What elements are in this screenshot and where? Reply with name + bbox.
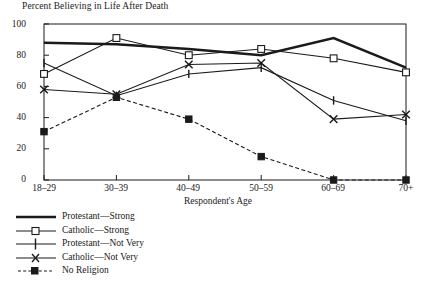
legend-item-catholic-not-very: Catholic—Not Very bbox=[14, 251, 144, 265]
legend-key-no-religion bbox=[14, 264, 58, 278]
legend-key-protestant-strong bbox=[14, 210, 58, 224]
legend-label-catholic-not-very: Catholic—Not Very bbox=[58, 251, 138, 265]
legend-item-protestant-strong: Protestant—Strong bbox=[14, 210, 144, 224]
data-series-layer bbox=[40, 35, 410, 184]
legend-key-protestant-not-very bbox=[14, 237, 58, 251]
legend-label-catholic-strong: Catholic—Strong bbox=[58, 224, 129, 238]
legend-key-catholic-not-very bbox=[14, 251, 58, 265]
legend-item-catholic-strong: Catholic—Strong bbox=[14, 224, 144, 238]
chart-container: Percent Believing in Life After Death 10… bbox=[0, 0, 436, 287]
legend-label-protestant-strong: Protestant—Strong bbox=[58, 210, 135, 224]
legend-label-protestant-not-very: Protestant—Not Very bbox=[58, 237, 144, 251]
legend-item-no-religion: No Religion bbox=[14, 264, 144, 278]
chart-legend: Protestant—Strong Catholic—Strong Protes… bbox=[14, 210, 144, 278]
legend-item-protestant-not-very: Protestant—Not Very bbox=[14, 237, 144, 251]
x-axis-ticks bbox=[44, 175, 406, 180]
series-protestant-not-very bbox=[44, 59, 406, 125]
legend-label-no-religion: No Religion bbox=[58, 264, 109, 278]
series-catholic-not-very bbox=[40, 59, 410, 123]
legend-key-catholic-strong bbox=[14, 224, 58, 238]
series-no-religion bbox=[41, 94, 409, 183]
y-axis-ticks bbox=[44, 24, 49, 180]
